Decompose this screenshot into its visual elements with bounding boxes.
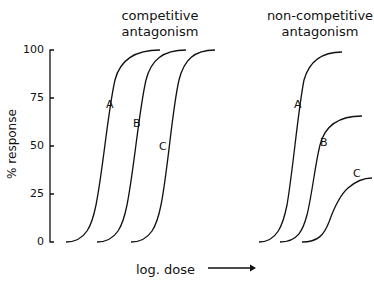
arrow-right-icon [250, 265, 256, 272]
chart-plot [0, 0, 374, 283]
y-axis [50, 50, 54, 242]
